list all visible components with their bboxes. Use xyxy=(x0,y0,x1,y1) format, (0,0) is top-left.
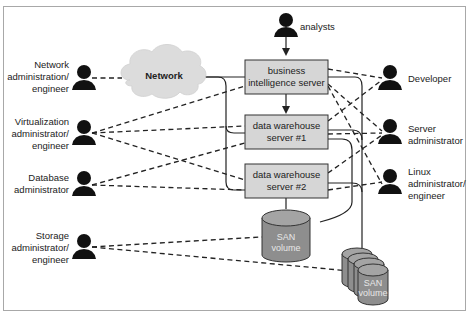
virtualization-admin-label-1: Virtualization xyxy=(15,116,69,127)
san-volume-1[interactable]: SAN volume xyxy=(262,210,310,262)
developer-label: Developer xyxy=(408,73,451,84)
san-volume-1-label-1: SAN xyxy=(277,232,296,242)
san-volume-1-label-2: volume xyxy=(271,243,300,253)
san-volume-stack[interactable]: SAN volume xyxy=(342,248,388,305)
virt-to-dw1 xyxy=(92,126,245,133)
server-bi[interactable]: business intelligence server xyxy=(245,60,328,94)
server-bi-label-2: intelligence server xyxy=(248,77,325,88)
network-cloud[interactable]: Network xyxy=(121,45,206,99)
network-admin-label-1: Network xyxy=(34,59,69,70)
linux-admin-label-1: Linux xyxy=(408,166,431,177)
san-volume-2-label-2: volume xyxy=(358,288,387,298)
network-cloud-label: Network xyxy=(145,70,183,81)
architecture-diagram: Network business intelligence server dat… xyxy=(0,0,472,317)
server-dw2[interactable]: data warehouse server #2 xyxy=(245,164,328,198)
analysts-label: analysts xyxy=(300,21,335,32)
server-dw1[interactable]: data warehouse server #1 xyxy=(245,115,328,149)
server-dw2-label-1: data warehouse xyxy=(253,169,321,180)
server-admin-label-2: administrator xyxy=(408,135,463,146)
storage-to-san1 xyxy=(92,237,262,247)
bi-to-linux xyxy=(328,86,382,184)
person-icon xyxy=(72,171,96,196)
linux-admin-label-3: engineer xyxy=(408,190,445,201)
linux-admin-label-2: administrator/ xyxy=(408,178,466,189)
bi-right-bus xyxy=(328,77,362,272)
dw1-to-developer xyxy=(328,80,382,121)
person-icon xyxy=(378,119,402,144)
network-admin-label-3: engineer xyxy=(32,83,69,94)
dashed-connections xyxy=(92,69,382,271)
storage-admin-label-1: Storage xyxy=(36,230,69,241)
server-dw2-label-2: server #2 xyxy=(267,181,307,192)
dw1-to-serveradmin xyxy=(328,133,382,134)
storage-admin-label-3: engineer xyxy=(32,254,69,265)
dw2-to-serveradmin xyxy=(328,135,382,173)
network-admin-label-2: administration/ xyxy=(7,71,69,82)
person-icon xyxy=(274,13,298,37)
db-to-dw1 xyxy=(92,143,245,185)
virt-to-dw2 xyxy=(92,133,245,180)
server-dw1-label-2: server #1 xyxy=(267,132,307,143)
db-to-dw2 xyxy=(92,185,245,190)
database-admin-label-1: Database xyxy=(28,172,69,183)
server-dw1-label-1: data warehouse xyxy=(253,120,321,131)
virtualization-admin-label-3: engineer xyxy=(32,140,69,151)
bi-to-serveradmin xyxy=(328,84,382,131)
person-icons xyxy=(72,13,402,259)
storage-to-san2 xyxy=(92,247,350,271)
storage-admin-label-2: administrator/ xyxy=(11,242,69,253)
server-bi-label-1: business xyxy=(268,65,306,76)
database-admin-label-2: administrator xyxy=(14,184,69,195)
san-volume-2-label-1: SAN xyxy=(364,278,383,288)
server-admin-label-1: Server xyxy=(408,123,436,134)
virtualization-admin-label-2: administrator/ xyxy=(11,128,69,139)
